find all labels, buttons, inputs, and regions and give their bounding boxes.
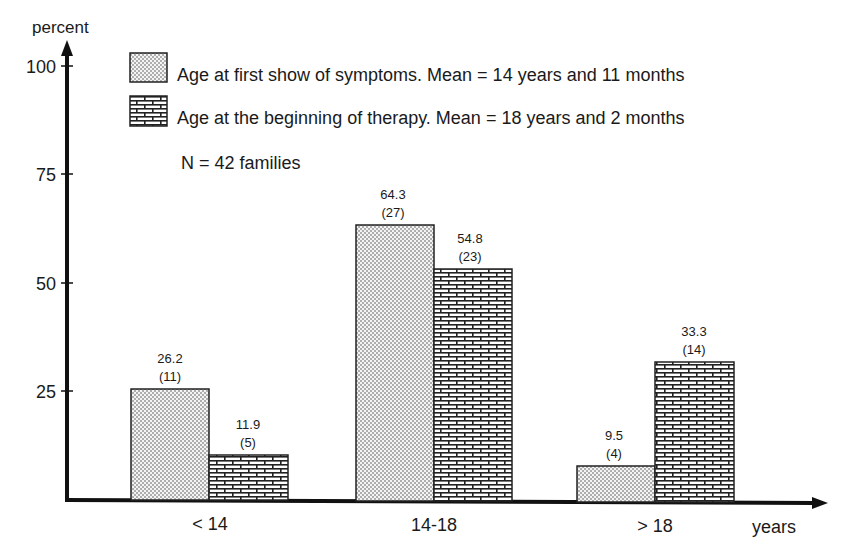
- count-label: (5): [240, 435, 256, 450]
- value-label: 54.8: [457, 231, 482, 246]
- value-label: 9.5: [605, 428, 623, 443]
- legend-label-therapy: Age at the beginning of therapy. Mean = …: [177, 108, 685, 128]
- bar-therapy-gt18: [655, 362, 734, 502]
- count-label: (23): [458, 249, 481, 264]
- x-axis-arrow-icon: [812, 497, 828, 509]
- x-category-gt18: > 18: [637, 516, 673, 536]
- count-label: (14): [682, 342, 705, 357]
- bar-symptoms-gt18: [577, 466, 655, 502]
- x-category-lt14: < 14: [192, 514, 228, 534]
- legend-swatch-dotted: [130, 53, 167, 82]
- count-label: (4): [606, 446, 622, 461]
- y-axis: percent 100 75 50 25: [26, 18, 89, 500]
- bar-symptoms-14-18: [356, 225, 434, 501]
- x-category-14-18: 14-18: [411, 515, 457, 535]
- sample-size-note: N = 42 families: [181, 153, 301, 173]
- value-label: 64.3: [380, 187, 405, 202]
- y-axis-label: percent: [32, 18, 89, 37]
- y-axis-arrow-icon: [61, 40, 73, 56]
- bar-symptoms-lt14: [131, 389, 209, 500]
- bar-group-14-18: 64.3 (27) 54.8 (23): [356, 187, 512, 501]
- bar-group-gt18: 9.5 (4) 33.3 (14): [577, 324, 734, 502]
- x-axis: < 14 14-18 > 18 years: [65, 497, 828, 537]
- y-tick-100: 100: [26, 57, 56, 77]
- legend-label-symptoms: Age at first show of symptoms. Mean = 14…: [177, 65, 684, 85]
- bar-therapy-14-18: [434, 269, 512, 501]
- count-label: (11): [159, 369, 181, 384]
- y-tick-25: 25: [36, 382, 56, 402]
- value-label: 26.2: [157, 351, 182, 366]
- y-tick-75: 75: [36, 165, 56, 185]
- value-label: 33.3: [681, 324, 706, 339]
- count-label: (27): [381, 205, 404, 220]
- bar-therapy-lt14: [209, 455, 288, 500]
- bar-group-lt14: 26.2 (11) 11.9 (5): [131, 351, 288, 500]
- x-axis-label: years: [752, 517, 796, 537]
- legend: Age at first show of symptoms. Mean = 14…: [130, 53, 685, 173]
- value-label: 11.9: [236, 417, 260, 432]
- bar-chart: percent 100 75 50 25 < 14 14-18 > 18 yea…: [0, 0, 847, 560]
- y-tick-50: 50: [36, 274, 56, 294]
- legend-swatch-brick: [130, 96, 167, 126]
